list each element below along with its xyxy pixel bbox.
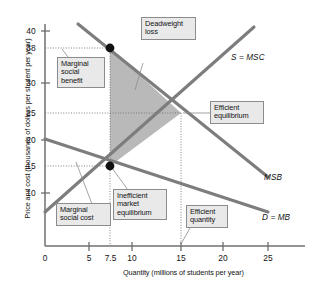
x-tick-label-7-5: 7.5 xyxy=(100,253,121,263)
x-axis-title: Quantity (millions of students per year) xyxy=(123,268,244,277)
callout-marginal-social-benefit: Marginal social benefit xyxy=(57,57,105,88)
leader-efficient-quantity xyxy=(181,228,190,244)
economics-graph: 40 38 30 25 20 15 10 0 5 7.5 10 15 20 25… xyxy=(0,0,311,292)
plot-canvas xyxy=(0,0,311,292)
curve-label-msb: MSB xyxy=(264,173,282,182)
callout-efficient-quantity: Efficient quantity xyxy=(186,205,228,228)
callout-inefficient-market-equilibrium: Inefficient market equilibrium xyxy=(113,189,167,220)
callout-deadweight-loss: Deadweight loss xyxy=(141,17,196,40)
callout-marginal-social-cost: Marginal social cost xyxy=(56,203,111,226)
market-equilibrium-dot xyxy=(106,162,115,171)
callout-efficient-equilibrium: Efficient equilibrium xyxy=(210,101,264,124)
market-price-dot xyxy=(106,44,115,53)
x-tick-label-0: 0 xyxy=(36,253,54,263)
x-tick-label-20: 20 xyxy=(214,253,232,263)
deadweight-loss-region xyxy=(110,48,181,166)
leader-inefficient-market-equilibrium xyxy=(112,168,128,190)
y-axis-title: Price and cost (thousands of dollars per… xyxy=(23,34,32,224)
x-tick-label-5: 5 xyxy=(80,253,98,263)
curve-label-supply-msc: S = MSC xyxy=(231,53,265,62)
x-tick-label-10: 10 xyxy=(123,253,141,263)
x-tick-label-15: 15 xyxy=(172,253,190,263)
x-tick-label-25: 25 xyxy=(259,253,277,263)
curve-label-demand-mb: D = MB xyxy=(262,213,290,222)
